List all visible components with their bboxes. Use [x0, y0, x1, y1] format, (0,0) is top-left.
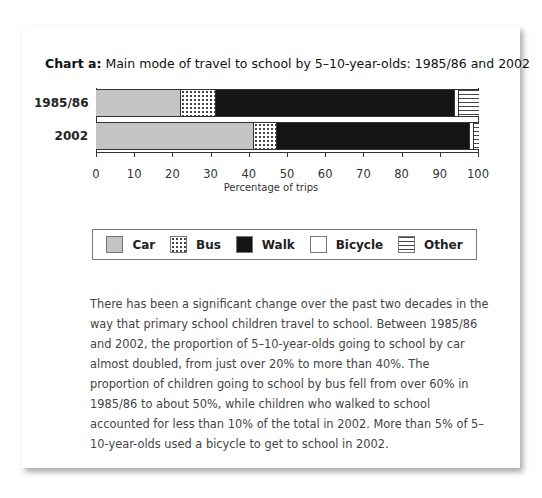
x-tick [478, 152, 479, 157]
segment-bus [253, 123, 276, 149]
x-tick-label: 80 [394, 167, 409, 181]
x-tick [96, 152, 97, 157]
segment-car [96, 123, 253, 149]
segment-car [96, 90, 180, 116]
legend-label: Walk [262, 238, 295, 252]
legend-swatch-other [398, 236, 415, 253]
legend-item-bus: Bus [170, 236, 221, 253]
x-tick [172, 152, 173, 157]
legend-label: Bus [196, 238, 221, 252]
x-tick [287, 152, 288, 157]
legend-swatch-car [106, 236, 123, 253]
bar-1985-86 [96, 89, 479, 117]
x-tick [134, 152, 135, 157]
x-tick [211, 152, 212, 157]
legend-label: Bicycle [336, 238, 384, 252]
x-tick [363, 152, 364, 157]
chart-title-text: Main mode of travel to school by 5–10-ye… [101, 56, 530, 71]
x-tick-label: 90 [432, 167, 447, 181]
legend-item-car: Car [106, 236, 155, 253]
plot-area [96, 88, 479, 152]
legend: CarBusWalkBicycleOther [92, 229, 477, 260]
description-paragraph: There has been a significant change over… [90, 294, 490, 454]
legend-swatch-walk [236, 236, 253, 253]
legend-swatch-bicycle [310, 236, 327, 253]
x-tick-label: 20 [165, 167, 180, 181]
chart-title-prefix: Chart a: [45, 56, 101, 71]
category-label-2002: 2002 [34, 129, 88, 143]
x-tick-label: 0 [92, 167, 99, 181]
bar-2002 [96, 122, 479, 150]
x-tick [402, 152, 403, 157]
x-axis [96, 152, 479, 153]
x-axis-title: Percentage of trips [0, 182, 542, 193]
x-tick [440, 152, 441, 157]
x-tick-label: 40 [241, 167, 256, 181]
legend-label: Other [424, 238, 463, 252]
segment-walk [215, 90, 454, 116]
x-tick-label: 50 [280, 167, 295, 181]
x-tick-label: 60 [318, 167, 333, 181]
legend-item-other: Other [398, 236, 463, 253]
legend-label: Car [132, 238, 155, 252]
segment-other [473, 123, 479, 149]
legend-item-bicycle: Bicycle [310, 236, 384, 253]
legend-swatch-bus [170, 236, 187, 253]
segment-other [458, 90, 479, 116]
x-tick-label: 30 [203, 167, 218, 181]
segment-bus [180, 90, 214, 116]
x-tick-label: 70 [356, 167, 371, 181]
x-tick [249, 152, 250, 157]
x-tick [325, 152, 326, 157]
category-label-1985: 1985/86 [34, 96, 88, 110]
legend-item-walk: Walk [236, 236, 295, 253]
segment-walk [276, 123, 469, 149]
chart-title: Chart a: Main mode of travel to school b… [45, 56, 530, 71]
x-tick-label: 100 [467, 167, 489, 181]
x-tick-label: 10 [127, 167, 142, 181]
